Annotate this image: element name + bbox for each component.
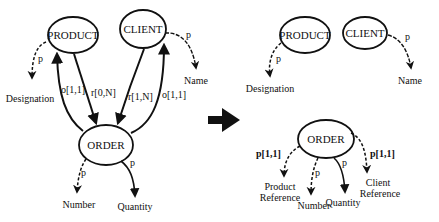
svg-text:p: p <box>315 167 320 178</box>
svg-text:Client: Client <box>366 177 391 188</box>
svg-text:ORDER: ORDER <box>307 133 345 145</box>
node-client-left: CLIENT <box>120 10 166 48</box>
svg-text:o[1,1]: o[1,1] <box>162 89 186 100</box>
svg-text:p[1,1]: p[1,1] <box>256 148 281 159</box>
svg-text:PRODUCT: PRODUCT <box>279 29 331 41</box>
left-schema: PRODUCT CLIENT ORDER p Designation p Nam… <box>6 10 209 212</box>
svg-text:ORDER: ORDER <box>87 139 125 151</box>
edge-product-designation-right: p Designation <box>246 43 294 94</box>
edge-client-name-left: p Name <box>165 29 208 86</box>
edge-order-product-reference: p[1,1] Product Reference <box>256 146 301 203</box>
svg-text:CLIENT: CLIENT <box>345 27 384 39</box>
svg-text:p[1,1]: p[1,1] <box>370 148 395 159</box>
edge-order-client-reference: p[1,1] Client Reference <box>351 133 401 199</box>
svg-text:r[0,N]: r[0,N] <box>91 87 116 98</box>
node-client-right: CLIENT <box>343 17 387 49</box>
svg-text:p: p <box>81 167 86 178</box>
right-schema: PRODUCT CLIENT ORDER p Designation p Nam… <box>246 17 423 211</box>
svg-text:p: p <box>130 157 135 168</box>
svg-text:r[1,N]: r[1,N] <box>128 91 153 102</box>
svg-text:p: p <box>186 29 191 40</box>
svg-text:Number: Number <box>63 199 96 210</box>
edge-order-quantity-right: p Quantity <box>326 157 361 208</box>
svg-text:p: p <box>342 157 347 168</box>
svg-text:p: p <box>276 53 281 64</box>
svg-text:Quantity: Quantity <box>118 201 153 212</box>
svg-text:Name: Name <box>184 75 208 86</box>
svg-text:CLIENT: CLIENT <box>123 23 162 35</box>
svg-text:PRODUCT: PRODUCT <box>47 29 99 41</box>
svg-text:Designation: Designation <box>6 93 54 104</box>
node-product-left: PRODUCT <box>47 17 99 53</box>
svg-text:Name: Name <box>398 75 422 86</box>
node-order-left: ORDER <box>79 125 133 165</box>
svg-text:Reference: Reference <box>360 188 401 199</box>
node-product-right: PRODUCT <box>279 17 331 53</box>
schema-transformation-diagram: PRODUCT CLIENT ORDER p Designation p Nam… <box>0 0 439 222</box>
svg-text:Product: Product <box>264 181 295 192</box>
svg-text:Quantity: Quantity <box>326 197 361 208</box>
transform-arrow-icon <box>208 108 240 132</box>
edge-order-quantity-left: p Quantity <box>118 157 153 212</box>
edge-product-designation-left: p Designation <box>6 42 54 104</box>
edge-client-order-r1n: r[1,N] <box>118 49 153 123</box>
svg-text:o[1,1]: o[1,1] <box>61 84 85 95</box>
svg-text:p: p <box>38 53 43 64</box>
edge-order-product-o11: o[1,1] <box>57 54 85 131</box>
svg-text:Reference: Reference <box>260 192 301 203</box>
svg-text:Designation: Designation <box>246 83 294 94</box>
node-order-right: ORDER <box>298 120 354 158</box>
edge-order-client-o11: o[1,1] <box>131 45 186 133</box>
svg-text:p: p <box>405 31 410 42</box>
edge-order-number-left: p Number <box>63 159 96 210</box>
edge-client-name-right: p Name <box>388 31 422 86</box>
